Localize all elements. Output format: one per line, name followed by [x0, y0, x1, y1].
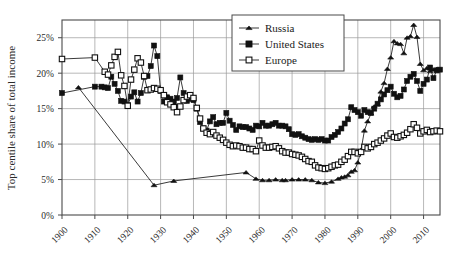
y-tick-label: 5% — [41, 175, 54, 185]
data-marker-square — [286, 127, 291, 132]
data-marker-square — [339, 126, 344, 131]
data-marker-open-square — [138, 60, 143, 65]
data-marker-square — [60, 91, 65, 96]
data-marker-open-square — [105, 72, 110, 77]
data-marker-square — [106, 86, 111, 91]
y-tick-label: 25% — [37, 33, 55, 43]
data-marker-open-square — [437, 129, 442, 134]
data-marker-open-square — [253, 148, 258, 153]
data-marker-square — [175, 96, 180, 101]
chart-figure: 0%5%10%15%20%25% 19001910192019301940195… — [0, 0, 456, 259]
data-marker-square — [428, 65, 433, 70]
data-marker-square — [112, 81, 117, 86]
data-marker-square — [224, 110, 229, 115]
data-marker-square — [152, 43, 157, 48]
data-marker-open-square — [59, 56, 64, 61]
legend-label: Europe — [265, 54, 297, 66]
data-marker-square — [431, 76, 436, 81]
data-marker-square — [138, 91, 143, 96]
data-marker-open-square — [191, 95, 196, 100]
y-tick-label: 15% — [37, 104, 55, 114]
data-marker-square — [424, 77, 429, 82]
legend-label: United States — [265, 38, 324, 50]
data-marker-square — [438, 67, 443, 72]
data-marker-open-square — [194, 105, 199, 110]
data-marker-open-square — [122, 83, 127, 88]
data-marker-open-square — [197, 116, 202, 121]
data-marker-open-square — [414, 125, 419, 130]
data-marker-open-square — [174, 109, 179, 114]
data-marker-square — [398, 93, 403, 98]
data-marker-square — [414, 78, 419, 83]
data-marker-square — [155, 54, 160, 59]
data-marker-square — [92, 84, 97, 89]
data-marker-open-square — [132, 67, 137, 72]
data-marker-open-square — [92, 55, 97, 60]
income-share-line-chart: 0%5%10%15%20%25% 19001910192019301940195… — [0, 0, 456, 259]
data-marker-square — [135, 99, 140, 104]
data-marker-square — [372, 106, 377, 111]
y-axis-title: Top centile share of total income — [5, 46, 17, 190]
data-marker-square — [132, 90, 137, 95]
data-marker-square — [221, 120, 226, 125]
data-marker-open-square — [141, 73, 146, 78]
data-marker-square — [401, 87, 406, 92]
data-marker-square — [418, 88, 423, 93]
y-tick-label: 20% — [37, 69, 55, 79]
data-marker-open-square — [115, 49, 120, 54]
data-marker-open-square — [246, 57, 252, 63]
data-marker-open-square — [178, 104, 183, 109]
y-tick-label: 0% — [41, 211, 54, 221]
y-tick-label: 10% — [37, 140, 55, 150]
data-marker-open-square — [128, 77, 133, 82]
data-marker-open-square — [161, 92, 166, 97]
legend-label: Russia — [265, 22, 294, 34]
chart-legend: RussiaUnited StatesEurope — [232, 15, 344, 71]
data-marker-square — [411, 71, 416, 76]
data-marker-square — [359, 113, 364, 118]
data-marker-square — [230, 122, 235, 127]
data-marker-square — [148, 64, 153, 69]
data-marker-square — [378, 97, 383, 102]
data-marker-square — [211, 115, 216, 120]
data-marker-square — [115, 88, 120, 93]
data-marker-open-square — [125, 103, 130, 108]
data-marker-square — [178, 75, 183, 80]
data-marker-square — [246, 41, 252, 47]
data-marker-open-square — [118, 73, 123, 78]
chart-background — [0, 0, 456, 259]
data-marker-square — [345, 117, 350, 122]
data-marker-square — [388, 84, 393, 89]
data-marker-open-square — [109, 63, 114, 68]
